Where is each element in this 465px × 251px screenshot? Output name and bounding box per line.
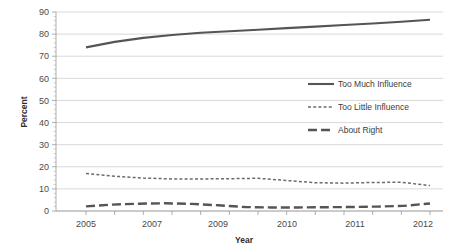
y-tick-label: 20 xyxy=(39,162,49,172)
y-tick-label: 80 xyxy=(39,29,49,39)
x-tick-label: 2011 xyxy=(345,219,364,229)
y-tick-label: 90 xyxy=(39,7,49,17)
y-tick-label: 10 xyxy=(39,184,49,194)
legend-label-1: Too Little Influence xyxy=(338,102,409,112)
y-axis-title: Percent xyxy=(19,96,29,127)
line-chart: 0102030405060708090 20052007200920102011… xyxy=(0,0,465,251)
y-tick-label: 40 xyxy=(39,118,49,128)
legend-label-0: Too Much Influence xyxy=(338,79,412,89)
data-series xyxy=(86,20,430,208)
x-axis-title: Year xyxy=(235,235,254,245)
x-axis-tick-labels: 200520072009201020112012 xyxy=(76,219,433,229)
y-tick-label: 0 xyxy=(44,206,49,216)
y-axis xyxy=(52,12,56,211)
x-tick-label: 2007 xyxy=(142,219,162,229)
chart-canvas: 0102030405060708090 20052007200920102011… xyxy=(0,0,465,251)
y-tick-label: 70 xyxy=(39,51,49,61)
y-tick-label: 50 xyxy=(39,96,49,106)
y-tick-label: 30 xyxy=(39,140,49,150)
x-tick-label: 2009 xyxy=(208,219,228,229)
y-tick-label: 60 xyxy=(39,74,49,84)
series-line-1 xyxy=(86,173,430,185)
x-axis xyxy=(56,211,443,215)
series-line-0 xyxy=(86,20,430,48)
x-tick-label: 2012 xyxy=(413,219,433,229)
chart-legend: Too Much InfluenceToo Little InfluenceAb… xyxy=(308,79,412,135)
series-line-2 xyxy=(86,203,430,207)
x-tick-label: 2005 xyxy=(76,219,96,229)
legend-label-2: About Right xyxy=(338,125,383,135)
y-axis-tick-labels: 0102030405060708090 xyxy=(39,7,49,216)
x-tick-label: 2010 xyxy=(277,219,297,229)
